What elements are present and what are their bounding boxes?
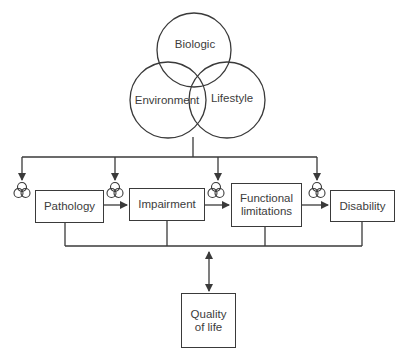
box-pathology: Pathology [35, 190, 104, 223]
mini-venn-icon [309, 183, 325, 198]
label-biologic: Biologic [164, 38, 226, 51]
label-environment: Environment [129, 94, 205, 107]
box-quality-of-life: Quality of life [181, 293, 236, 348]
label-lifestyle: Lifestyle [204, 92, 260, 105]
box-impairment: Impairment [129, 188, 205, 221]
mini-venn-icon [14, 183, 30, 198]
outcome-bus [65, 221, 362, 291]
mini-venn-icon [107, 183, 123, 198]
box-disability: Disability [330, 190, 395, 222]
venn-factors [130, 13, 265, 138]
mini-venn-icon [208, 183, 224, 198]
box-functional-limitations: Functional limitations [231, 183, 302, 227]
factor-distribution-lines [22, 137, 317, 180]
